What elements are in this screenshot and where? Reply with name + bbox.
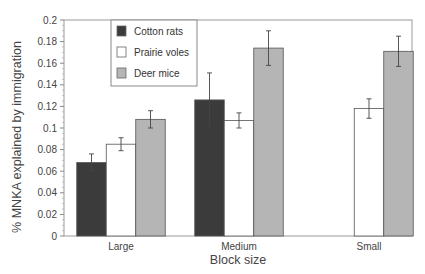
- y-tick-label: 0.02: [38, 209, 58, 220]
- x-axis-title: Block size: [210, 253, 266, 267]
- x-tick-label: Medium: [221, 241, 257, 252]
- bar-deer-mice-large: [136, 119, 166, 236]
- y-axis-title: % MNKA explained by immigration: [10, 41, 24, 233]
- bar-group-large: [77, 111, 166, 236]
- bar-cotton-rats-large: [77, 163, 107, 236]
- x-tick-label: Small: [356, 241, 381, 252]
- bar-chart: 00.020.040.060.080.10.120.140.160.180.2 …: [0, 0, 425, 274]
- bar-prairie-voles-small: [354, 109, 384, 236]
- x-tick-label: Large: [108, 241, 134, 252]
- bar-prairie-voles-medium: [224, 120, 254, 236]
- y-tick-label: 0.08: [38, 144, 58, 155]
- y-axis: 00.020.040.060.080.10.120.140.160.180.2: [38, 15, 64, 242]
- y-tick-label: 0.2: [43, 15, 57, 26]
- legend: Cotton ratsPrairie volesDeer mice: [111, 20, 197, 86]
- legend-swatch: [117, 68, 126, 78]
- y-tick-label: 0.18: [38, 36, 58, 47]
- y-tick-label: 0.12: [38, 101, 58, 112]
- legend-label: Prairie voles: [134, 47, 189, 58]
- legend-swatch: [117, 26, 126, 36]
- bar-group-medium: [195, 31, 284, 236]
- bar-prairie-voles-large: [106, 144, 136, 236]
- y-tick-label: 0.16: [38, 58, 58, 69]
- y-tick-label: 0.14: [38, 79, 58, 90]
- bar-deer-mice-small: [384, 51, 414, 236]
- y-tick-label: 0.06: [38, 166, 58, 177]
- legend-label: Deer mice: [134, 68, 180, 79]
- x-axis: LargeMediumSmall: [108, 241, 381, 252]
- bar-group-small: [354, 36, 413, 236]
- bar-deer-mice-medium: [254, 48, 284, 236]
- y-tick-label: 0: [51, 231, 57, 242]
- y-tick-label: 0.1: [43, 123, 57, 134]
- legend-label: Cotton rats: [134, 26, 183, 37]
- y-tick-label: 0.04: [38, 187, 58, 198]
- legend-swatch: [117, 47, 126, 57]
